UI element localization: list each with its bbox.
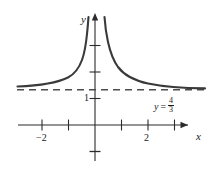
x-tick-label-2: 2 (144, 133, 149, 143)
plot-canvas (0, 0, 209, 175)
asymptote-equation-label: y = 4 3 (154, 98, 174, 116)
asymptote-eq-numerator: 4 (168, 97, 174, 105)
y-axis-label: y (81, 14, 86, 25)
y-axis (90, 13, 101, 161)
curve-right-branch (105, 17, 206, 88)
x-tick-label-neg2: −2 (36, 133, 47, 143)
y-tick-label-1: 1 (84, 93, 89, 103)
x-axis-arrowhead (181, 122, 189, 128)
asymptote-eq-denominator: 3 (168, 105, 174, 114)
graph-figure: y x −2 2 1 y = 4 3 (0, 0, 209, 175)
x-axis (18, 120, 188, 131)
asymptote-eq-equals: = (160, 102, 166, 112)
x-axis-label: x (196, 131, 201, 142)
curve-left-branch (18, 17, 89, 87)
y-axis-arrowhead (92, 13, 98, 21)
asymptote-eq-variable: y (154, 102, 158, 112)
asymptote-eq-fraction: 4 3 (168, 97, 174, 115)
